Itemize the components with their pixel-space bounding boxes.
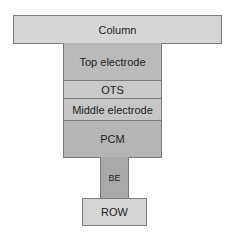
bottom-electrode: BE	[100, 157, 129, 199]
column-line: Column	[13, 15, 222, 44]
middle-electrode-layer: Middle electrode	[64, 98, 161, 120]
column-label: Column	[99, 24, 137, 36]
pcm-layer: PCM	[64, 120, 161, 157]
top-electrode-label: Top electrode	[79, 56, 145, 68]
ots-label: OTS	[101, 84, 124, 96]
row-label: ROW	[101, 206, 128, 218]
top-electrode-layer: Top electrode	[64, 43, 161, 80]
middle-electrode-label: Middle electrode	[72, 104, 153, 116]
ots-layer: OTS	[64, 80, 161, 98]
pcm-label: PCM	[100, 133, 124, 145]
bottom-electrode-label: BE	[108, 173, 120, 183]
row-line: ROW	[82, 198, 147, 226]
memory-cell-stack: Top electrode OTS Middle electrode PCM	[63, 43, 162, 158]
